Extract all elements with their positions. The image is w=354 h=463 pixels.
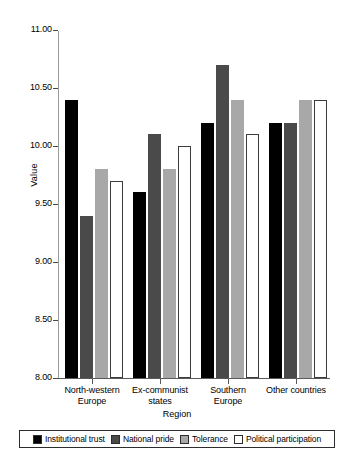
y-axis-tick-labels: 11.0010.5010.009.509.008.508.00 (16, 0, 52, 463)
bar-tolerance (299, 100, 312, 378)
bar-political-participation (110, 181, 123, 378)
chart-legend: Institutional trustNational prideToleran… (19, 430, 335, 448)
x-axis-tick-mark (228, 379, 229, 384)
legend-item: Political participation (234, 435, 321, 444)
y-axis-tick-label: 8.50 (18, 315, 52, 324)
x-axis-tick-label: Other countries (254, 385, 338, 396)
legend-item: Tolerance (180, 435, 228, 444)
x-axis-line (58, 378, 330, 379)
y-axis-tick-mark (53, 204, 58, 205)
bar-group (133, 30, 191, 378)
legend-item: Institutional trust (33, 435, 105, 444)
bar-political-participation (178, 146, 191, 378)
legend-item: National pride (111, 435, 174, 444)
bar-group (201, 30, 259, 378)
bar-tolerance (95, 169, 108, 378)
y-axis-tick-mark (53, 30, 58, 31)
y-axis-tick-label: 10.00 (18, 141, 52, 150)
x-axis-tick-mark (92, 379, 93, 384)
bar-chart: Value 11.0010.5010.009.509.008.508.00 Re… (0, 0, 354, 463)
bar-national-pride (148, 134, 161, 378)
legend-label: National pride (123, 435, 174, 444)
y-axis-tick-mark (53, 146, 58, 147)
bar-tolerance (163, 169, 176, 378)
bar-national-pride (216, 65, 229, 378)
y-axis-tick-label: 9.50 (18, 199, 52, 208)
bars-container (58, 30, 330, 378)
y-axis-tick-label: 11.00 (18, 25, 52, 34)
legend-label: Political participation (246, 435, 321, 444)
y-axis-tick-mark (53, 262, 58, 263)
x-axis-tick-mark (296, 379, 297, 384)
bar-group (65, 30, 123, 378)
x-axis-title: Region (0, 409, 354, 419)
bar-institutional-trust (65, 100, 78, 378)
bar-national-pride (284, 123, 297, 378)
legend-label: Tolerance (192, 435, 228, 444)
y-axis-tick-label: 8.00 (18, 373, 52, 382)
bar-institutional-trust (269, 123, 282, 378)
y-axis-tick-mark (53, 88, 58, 89)
legend-swatch-icon (234, 435, 243, 444)
legend-swatch-icon (33, 435, 42, 444)
legend-label: Institutional trust (45, 435, 105, 444)
legend-swatch-icon (180, 435, 189, 444)
bar-political-participation (314, 100, 327, 378)
bar-political-participation (246, 134, 259, 378)
legend-swatch-icon (111, 435, 120, 444)
y-axis-tick-label: 9.00 (18, 257, 52, 266)
y-axis-tick-mark (53, 320, 58, 321)
bar-tolerance (231, 100, 244, 378)
y-axis-tick-label: 10.50 (18, 83, 52, 92)
x-axis-tick-mark (160, 379, 161, 384)
bar-institutional-trust (133, 192, 146, 378)
bar-national-pride (80, 216, 93, 378)
bar-group (269, 30, 327, 378)
y-axis-tick-mark (53, 378, 58, 379)
bar-institutional-trust (201, 123, 214, 378)
